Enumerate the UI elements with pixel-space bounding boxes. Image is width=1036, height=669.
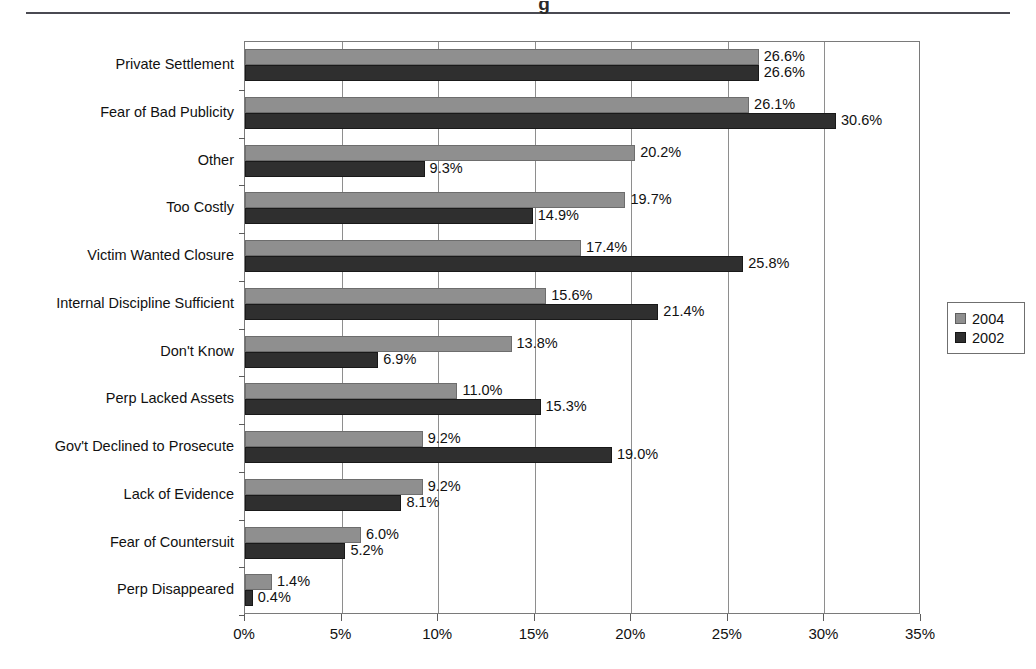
bar-2004[interactable] [245, 336, 512, 352]
bar-value-label: 9.2% [423, 430, 461, 446]
bar-2002[interactable] [245, 161, 425, 177]
x-axis-tick-label: 10% [397, 625, 477, 642]
x-axis-tick-label: 35% [880, 625, 960, 642]
legend-swatch-2002-icon [955, 332, 966, 343]
bar-row: 9.2%19.0% [245, 424, 919, 472]
category-label: Too Costly [14, 199, 244, 215]
bar-2002[interactable] [245, 495, 401, 511]
x-axis-tick [534, 614, 535, 621]
x-axis-tick [823, 614, 824, 621]
bar-2002[interactable] [245, 447, 612, 463]
category-label: Lack of Evidence [14, 486, 244, 502]
x-axis-tick [920, 614, 921, 621]
bar-2002[interactable] [245, 399, 541, 415]
bar-row: 17.4%25.8% [245, 233, 919, 281]
bar-value-label: 9.2% [423, 478, 461, 494]
bar-value-label: 6.9% [378, 351, 416, 367]
x-axis-tick [437, 614, 438, 621]
bar-row: 15.6%21.4% [245, 281, 919, 329]
bar-value-label: 9.3% [425, 160, 463, 176]
plot-area: 26.6%26.6%26.1%30.6%20.2%9.3%19.7%14.9%1… [244, 41, 920, 614]
x-axis-tick-label: 0% [204, 625, 284, 642]
bar-value-label: 21.4% [658, 303, 704, 319]
x-axis-tick-label: 25% [687, 625, 767, 642]
bar-2002[interactable] [245, 543, 345, 559]
bar-2004[interactable] [245, 49, 759, 65]
category-label: Don't Know [14, 343, 244, 359]
bar-2004[interactable] [245, 192, 625, 208]
legend-swatch-2004-icon [955, 313, 966, 324]
x-axis-tick [244, 614, 245, 621]
bar-row: 1.4%0.4% [245, 567, 919, 615]
bar-2004[interactable] [245, 383, 457, 399]
bar-row: 9.2%8.1% [245, 472, 919, 520]
bar-row: 13.8%6.9% [245, 329, 919, 377]
bar-value-label: 26.6% [759, 64, 805, 80]
bar-2002[interactable] [245, 208, 533, 224]
bar-value-label: 8.1% [401, 494, 439, 510]
bar-value-label: 1.4% [272, 573, 310, 589]
bar-2002[interactable] [245, 352, 378, 368]
bar-value-label: 13.8% [512, 335, 558, 351]
category-label: Internal Discipline Sufficient [14, 295, 244, 311]
bar-2004[interactable] [245, 288, 546, 304]
bar-row: 19.7%14.9% [245, 185, 919, 233]
bar-2002[interactable] [245, 65, 759, 81]
x-axis-tick [341, 614, 342, 621]
bar-value-label: 6.0% [361, 526, 399, 542]
bar-value-label: 25.8% [743, 255, 789, 271]
category-label: Perp Lacked Assets [14, 390, 244, 406]
bar-value-label: 20.2% [635, 144, 681, 160]
bar-value-label: 19.7% [625, 191, 671, 207]
bar-row: 26.1%30.6% [245, 90, 919, 138]
bar-value-label: 26.1% [749, 96, 795, 112]
category-label: Fear of Bad Publicity [14, 104, 244, 120]
bar-value-label: 30.6% [836, 112, 882, 128]
bar-2004[interactable] [245, 574, 272, 590]
bar-2004[interactable] [245, 240, 581, 256]
bar-2004[interactable] [245, 479, 423, 495]
bar-2002[interactable] [245, 590, 253, 606]
bar-2002[interactable] [245, 304, 658, 320]
bar-value-label: 5.2% [345, 542, 383, 558]
category-label: Fear of Countersuit [14, 534, 244, 550]
bar-2004[interactable] [245, 431, 423, 447]
x-axis-tick-label: 20% [590, 625, 670, 642]
bar-value-label: 14.9% [533, 207, 579, 223]
category-label: Other [14, 152, 244, 168]
bar-row: 6.0%5.2% [245, 520, 919, 568]
category-label: Gov't Declined to Prosecute [14, 438, 244, 454]
bar-2004[interactable] [245, 527, 361, 543]
x-axis-tick-label: 30% [783, 625, 863, 642]
bar-2002[interactable] [245, 113, 836, 129]
horizontal-bar-chart: 26.6%26.6%26.1%30.6%20.2%9.3%19.7%14.9%1… [0, 0, 1036, 669]
bar-row: 20.2%9.3% [245, 138, 919, 186]
legend: 2004 2002 [947, 302, 1025, 354]
x-axis-tick [727, 614, 728, 621]
bar-value-label: 0.4% [253, 589, 291, 605]
bar-value-label: 15.6% [546, 287, 592, 303]
legend-label-2002: 2002 [972, 330, 1004, 346]
category-label: Perp Disappeared [14, 581, 244, 597]
legend-item-2004[interactable]: 2004 [955, 309, 1017, 328]
bar-2002[interactable] [245, 256, 743, 272]
x-axis-tick-label: 15% [494, 625, 574, 642]
x-axis-tick [630, 614, 631, 621]
legend-item-2002[interactable]: 2002 [955, 328, 1017, 347]
bar-value-label: 15.3% [541, 398, 587, 414]
category-label: Private Settlement [14, 56, 244, 72]
bar-row: 26.6%26.6% [245, 42, 919, 90]
bar-2004[interactable] [245, 97, 749, 113]
bar-value-label: 19.0% [612, 446, 658, 462]
category-label: Victim Wanted Closure [14, 247, 244, 263]
bar-value-label: 17.4% [581, 239, 627, 255]
x-axis-tick-label: 5% [301, 625, 381, 642]
bar-row: 11.0%15.3% [245, 376, 919, 424]
bar-2004[interactable] [245, 145, 635, 161]
legend-label-2004: 2004 [972, 311, 1004, 327]
bar-value-label: 11.0% [457, 382, 502, 398]
bar-value-label: 26.6% [759, 48, 805, 64]
